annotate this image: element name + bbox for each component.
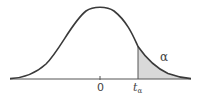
center-label: 0 — [97, 82, 104, 93]
tail-area-label: α — [160, 52, 168, 63]
density-curve — [10, 7, 191, 78]
critical-value-label: tα — [133, 82, 142, 97]
critical-value-subscript: α — [137, 87, 142, 95]
